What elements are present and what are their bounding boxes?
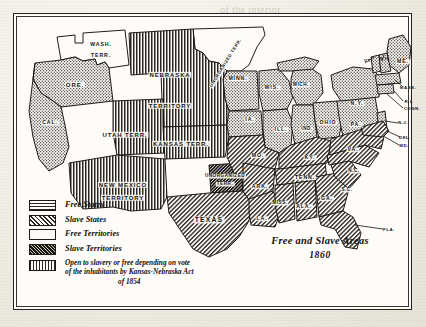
region-label-utah-territory: UTAH TERR. [102, 132, 149, 138]
region-label-pennsylvania: PA. [350, 122, 363, 127]
legend-row-slave-states: Slave States [29, 215, 244, 226]
free-states-swatch [29, 200, 56, 211]
region-label-michigan: MICH. [292, 83, 310, 88]
region-label-nebraska-territory: TERRITORY [148, 103, 192, 109]
legend-row-free-states: Free States [29, 200, 244, 211]
region-label-washington-territory: TERR. [90, 53, 112, 58]
region-label-unorganized-territory-south: UNORGANIZED [204, 174, 246, 179]
open-to-vote-label: Open to slavery or free depending on vot… [65, 258, 193, 286]
region-label-missouri: MO. [251, 153, 266, 158]
open-to-vote-line2: of the inhabitants by Kansas-Nebraska Ac… [65, 267, 193, 276]
open-to-vote-swatch [29, 260, 56, 271]
slave-territories-label: Slave Territories [65, 244, 122, 255]
map-stage: WASH.TERR.ORE.CAL.UTAH TERR.NEBRASKATERR… [13, 13, 412, 310]
slave-territories-swatch [29, 244, 56, 255]
region-label-iowa: IA. [244, 117, 255, 122]
callout-label-vermont: VT. [364, 59, 372, 64]
region-label-arkansas: ARK. [251, 184, 269, 189]
region-label-south-carolina: S.C. [340, 188, 353, 193]
region-label-mississippi: MISS. [271, 201, 288, 206]
map-title-block: Free and Slave Areas 1860 [245, 235, 395, 260]
region-label-ohio: OHIO [319, 120, 338, 125]
region-label-alabama: ALA. [295, 204, 313, 209]
callout-label-maryland: MD. [399, 144, 409, 149]
region-label-maine: ME. [396, 59, 410, 64]
slave-states-label: Slave States [65, 215, 106, 226]
map-title-year: 1860 [245, 249, 395, 260]
region-label-washington-territory: WASH. [89, 42, 113, 47]
map-legend: Free States Slave States Free Territorie… [29, 200, 244, 289]
free-territories-label: Free Territories [65, 229, 119, 240]
region-label-unorganized-territory-south: TERR. [216, 182, 235, 187]
region-label-north-carolina: N.C. [347, 169, 360, 174]
region-label-nebraska-territory: NEBRASKA [148, 72, 191, 78]
open-to-vote-line1: Open to slavery or free depending on vot… [65, 258, 190, 267]
region-label-new-york: N.Y. [349, 101, 364, 106]
region-label-kentucky: KY. [304, 155, 317, 160]
callout-label-delaware: DEL. [399, 136, 411, 141]
region-label-wisconsin: WIS. [264, 85, 281, 90]
region-label-california: CAL. [41, 120, 59, 125]
callout-label-connecticut: CONN. [404, 107, 421, 112]
legend-row-open-to-vote: Open to slavery or free depending on vot… [29, 258, 244, 286]
free-territories-swatch [29, 229, 56, 240]
region-label-louisiana: LA. [255, 216, 268, 221]
callout-label-massachusetts: MASS. [400, 86, 416, 91]
region-label-kansas-territory: KANSAS TERR. [152, 141, 210, 147]
callout-label-new-jersey: N.J. [398, 121, 408, 126]
region-label-oregon: ORE. [65, 82, 85, 88]
legend-row-slave-territories: Slave Territories [29, 244, 244, 255]
legend-row-free-territories: Free Territories [29, 229, 244, 240]
slave-states-swatch [29, 215, 56, 226]
region-label-georgia: GA. [320, 196, 334, 201]
region-label-new-mexico-territory: NEW MEXICO [98, 182, 148, 188]
region-label-minnesota: MINN. [227, 76, 248, 81]
callout-label-florida: FLA. [383, 228, 395, 233]
region-label-illinois: ILL. [274, 127, 289, 132]
callout-label-new-hampshire: N.H. [380, 57, 391, 62]
region-label-tennessee: TENN. [294, 175, 316, 180]
open-to-vote-line3: of 1854 [65, 277, 193, 286]
region-label-virginia: VA. [347, 147, 360, 152]
free-states-label: Free States [65, 200, 104, 211]
map-title-line1: Free and Slave Areas [245, 235, 395, 246]
region-label-indiana: IND. [300, 127, 313, 132]
callout-label-rhode-island: R.I. [405, 100, 414, 105]
